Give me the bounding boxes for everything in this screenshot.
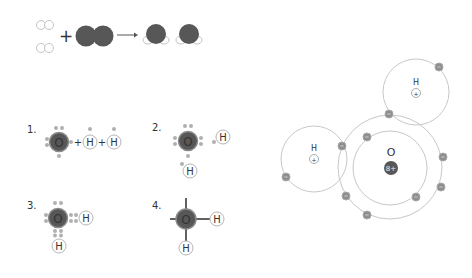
electron: [385, 110, 393, 118]
hydrogen-symbol: H: [186, 166, 194, 177]
electron: [342, 192, 350, 200]
hydrogen-symbol: H: [82, 213, 90, 224]
oxygen-symbol: O: [54, 136, 63, 150]
hydrogen-symbol: H: [110, 137, 118, 148]
hydrogen-symbol: H: [86, 137, 94, 148]
hydrogen-atom-left: H +: [310, 144, 319, 164]
hydrogen-label: H: [311, 144, 317, 153]
electron: [282, 173, 290, 181]
electron: [363, 211, 371, 219]
plus-sign: +: [59, 26, 73, 46]
step-1-number: 1.: [27, 124, 37, 135]
step-4: 4. O H H: [152, 198, 224, 255]
bohr-model: H + H + O 8+: [281, 59, 449, 219]
plus-sign: +: [98, 137, 106, 148]
oxygen-symbol: O: [181, 213, 190, 227]
hydrogen-atom-upper: H +: [412, 78, 421, 98]
oxygen-symbol: O: [183, 135, 192, 149]
oxygen-charge: 8+: [386, 165, 396, 173]
step-3: 3. O H H: [27, 200, 93, 253]
electron: [338, 142, 346, 150]
hydrogen-molecule-1: [37, 21, 54, 30]
oxygen-symbol: O: [53, 212, 62, 226]
step-1: 1. O + H + H: [27, 124, 121, 158]
hydrogen-charge: +: [413, 90, 418, 97]
hydrogen-charge: +: [311, 156, 316, 163]
electron: [363, 133, 371, 141]
oxygen-molecule: [76, 26, 114, 47]
water-molecule-2: [176, 24, 202, 44]
electron: [437, 183, 445, 191]
hydrogen-symbol: H: [182, 243, 190, 254]
plus-sign: +: [74, 137, 82, 148]
electron: [412, 193, 420, 201]
oxygen-label: O: [387, 146, 396, 159]
hydrogen-symbol: H: [219, 132, 227, 143]
electron: [435, 63, 443, 71]
step-2: 2. O H H: [152, 122, 230, 178]
hydrogen-symbol: H: [55, 241, 63, 252]
step-2-number: 2.: [152, 122, 162, 133]
diagram-canvas: + 1. O + H: [0, 0, 472, 278]
step-3-number: 3.: [27, 200, 37, 211]
electron: [439, 153, 447, 161]
reaction-arrow: [117, 33, 138, 38]
hydrogen-symbol: H: [213, 214, 221, 225]
water-molecule-1: [143, 24, 169, 44]
water-formation-diagram: + 1. O + H: [0, 0, 472, 278]
hydrogen-label: H: [413, 78, 419, 87]
oxygen-atom: O 8+: [384, 146, 398, 175]
hydrogen-molecule-2: [37, 44, 54, 53]
step-4-number: 4.: [152, 200, 162, 211]
reaction-equation: +: [37, 21, 203, 53]
